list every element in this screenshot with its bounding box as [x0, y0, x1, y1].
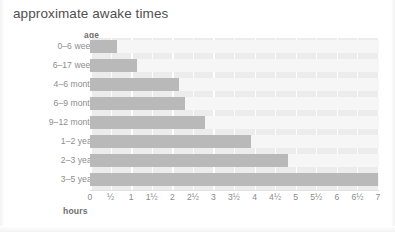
y-axis-header: age — [0, 30, 99, 40]
y-axis-tick-label: 6–17 weeks — [0, 60, 99, 70]
bar — [90, 154, 288, 167]
y-axis-tick-label: 4–6 months — [0, 79, 99, 89]
y-axis-tick-label: 6–9 months — [0, 98, 99, 108]
bar — [90, 78, 179, 91]
chart-page: approximate awake times age 0–6 weeks 6–… — [0, 0, 395, 232]
y-axis-tick-label: 9–12 months — [0, 117, 99, 127]
page-title: approximate awake times — [13, 6, 168, 21]
y-axis-tick-label: 2–3 years — [0, 155, 99, 165]
row-band — [90, 40, 379, 53]
y-axis-tick-label: 0–6 weeks — [0, 41, 99, 51]
bar — [90, 59, 137, 72]
bar — [90, 116, 205, 129]
y-axis-tick-label: 3–5 years — [0, 174, 99, 184]
x-axis-tick-label: 7 — [363, 192, 393, 202]
bar — [90, 173, 378, 186]
y-axis-tick-label: 1–2 years — [0, 136, 99, 146]
x-axis-line — [90, 190, 379, 191]
bar — [90, 40, 117, 53]
bar — [90, 97, 185, 110]
x-axis-header: hours — [63, 206, 88, 216]
bar — [90, 135, 251, 148]
plot-area — [90, 38, 379, 190]
page-edge-bottom — [0, 226, 395, 232]
